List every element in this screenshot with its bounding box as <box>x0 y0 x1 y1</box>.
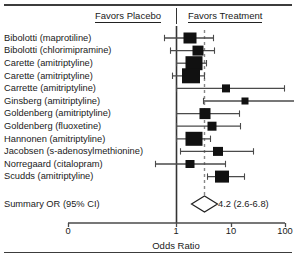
study-label: Norregaard (citalopram) <box>4 159 103 169</box>
favors-treatment-header: Favors Treatment <box>188 10 262 23</box>
study-label: Bibolotti (maprotiline) <box>4 33 91 43</box>
study-label: Carette (amitriptyline) <box>4 71 93 81</box>
study-label: Ginsberg (amitriptyline) <box>4 96 100 106</box>
summary-or-value: 4.2 (2.6-6.8) <box>218 199 269 209</box>
study-label: Goldenberg (fluoxetine) <box>4 121 101 131</box>
summary-row-label: Summary OR (95% CI) <box>4 199 100 209</box>
study-label: Bibolotti (chlorimipramine) <box>4 45 111 55</box>
study-label: Jacobsen (s-adenosylmethionine) <box>4 146 143 156</box>
bottom-rule <box>4 252 292 253</box>
study-label: Carrette (amitriptyline) <box>4 83 96 93</box>
axis-title: Odds Ratio <box>152 240 200 251</box>
study-label: Hannonen (amitriptyline) <box>4 134 105 144</box>
header-divider <box>176 8 177 24</box>
axis-tick-label: 10 <box>226 226 236 236</box>
top-rule <box>4 4 292 6</box>
study-label: Goldenberg (amitriptyline) <box>4 108 111 118</box>
forest-plot: Favors Placebo Favors Treatment Bibolott… <box>0 0 296 257</box>
study-label: Scudds (amitriptyline) <box>4 171 93 181</box>
axis-tick-label: 1 <box>173 226 178 236</box>
axis-tick-label: 100 <box>277 226 293 236</box>
study-label: Carette (amitriptyline) <box>4 58 93 68</box>
axis-tick-label: 0 <box>65 226 70 236</box>
favors-placebo-header: Favors Placebo <box>95 10 161 23</box>
